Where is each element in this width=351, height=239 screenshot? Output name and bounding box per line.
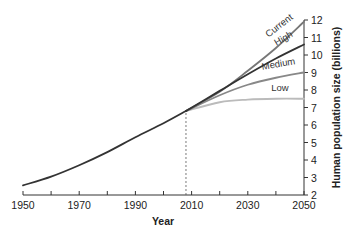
x-tick-label: 1990 [124,199,148,211]
y-tick-label: 6 [311,119,317,131]
series-label-medium: Medium [261,55,296,72]
population-chart: 195019701990201020302050Year234567891011… [0,0,351,239]
x-tick-label: 2010 [180,199,204,211]
y-tick-label: 11 [311,32,322,44]
y-tick-label: 4 [311,154,317,166]
y-tick-label: 12 [311,14,323,26]
x-tick-label: 1970 [68,199,92,211]
y-tick-label: 9 [311,67,317,79]
y-tick-label: 2 [311,189,317,201]
y-tick-label: 3 [311,172,317,184]
y-axis-title: Human population size (billions) [330,27,342,189]
x-axis-title: Year [152,215,174,227]
y-tick-label: 10 [311,49,323,61]
y-tick-label: 7 [311,102,317,114]
series-line-high [186,45,304,112]
x-tick-label: 2030 [236,199,260,211]
y-tick-label: 8 [311,84,317,96]
series-label-low: Low [271,82,289,93]
chart-canvas: 195019701990201020302050Year234567891011… [0,0,351,239]
x-tick-label: 1950 [11,199,35,211]
series-line-historical [23,111,186,185]
y-tick-label: 5 [311,137,317,149]
